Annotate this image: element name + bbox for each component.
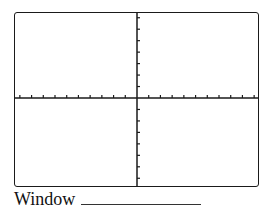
window-label: Window: [14, 188, 75, 210]
window-input-blank[interactable]: [81, 190, 201, 205]
coordinate-axes: [0, 0, 271, 210]
window-label-row: Window: [14, 188, 201, 210]
